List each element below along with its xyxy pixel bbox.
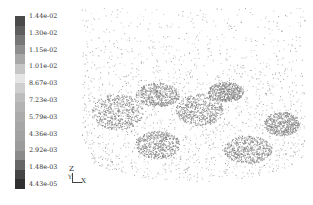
colorbar-tick-label: 1.15e-02 xyxy=(29,47,57,53)
colorbar-tick-label: 1.44e-02 xyxy=(29,13,57,19)
colorbar-segment xyxy=(15,179,25,189)
colorbar-tick-label: 4.43e-05 xyxy=(29,181,57,187)
colorbar-segment xyxy=(15,74,25,84)
axis-label-x: X xyxy=(81,177,86,185)
colorbar-tick-label: 4.36e-03 xyxy=(29,131,57,137)
colorbar-tick-label: 5.79e-03 xyxy=(29,114,57,120)
colorbar-segment xyxy=(15,83,25,93)
colorbar-segment xyxy=(15,64,25,74)
colorbar-segment xyxy=(15,93,25,103)
colorbar xyxy=(15,16,25,189)
colorbar-segment xyxy=(15,170,25,180)
axis-line-z xyxy=(72,173,73,182)
colorbar-segment xyxy=(15,122,25,132)
colorbar-segment xyxy=(15,151,25,161)
colorbar-segment xyxy=(15,112,25,122)
particle-scatter-plot xyxy=(80,5,310,195)
colorbar-segment xyxy=(15,141,25,151)
axis-label-z: Z xyxy=(69,165,74,173)
colorbar-tick-label: 1.48e-03 xyxy=(29,164,57,170)
colorbar-tick-label: 1.01e-02 xyxy=(29,63,57,69)
axes-triad: Z Y X xyxy=(66,165,90,191)
colorbar-segment xyxy=(15,102,25,112)
axis-line-x xyxy=(72,182,82,183)
colorbar-segment xyxy=(15,54,25,64)
colorbar-tick-label: 8.67e-03 xyxy=(29,80,57,86)
colorbar-tick-label: 1.30e-02 xyxy=(29,30,57,36)
colorbar-segment xyxy=(15,35,25,45)
colorbar-segment xyxy=(15,160,25,170)
colorbar-segment xyxy=(15,16,25,26)
colorbar-segment xyxy=(15,131,25,141)
colorbar-tick-label: 7.23e-03 xyxy=(29,97,57,103)
colorbar-segment xyxy=(15,26,25,36)
colorbar-tick-label: 2.92e-03 xyxy=(29,147,57,153)
colorbar-segment xyxy=(15,45,25,55)
